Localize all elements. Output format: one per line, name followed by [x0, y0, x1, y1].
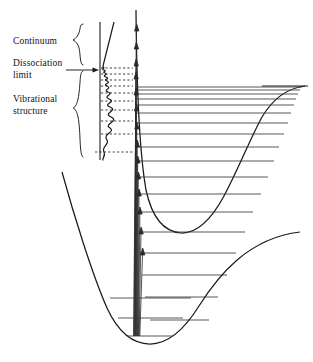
spectrum-vibrational-trace: [103, 67, 114, 160]
label-continuum: Continuum: [13, 36, 57, 48]
spectrum-continuum-trace: [103, 22, 114, 67]
tie-lines-group: [95, 68, 133, 152]
upper-state-group: [136, 10, 308, 320]
spectrum-panel: [95, 22, 133, 160]
label-dissociation-limit: Dissociation limit: [13, 58, 62, 81]
figure-container: Continuum Dissociation limit Vibrational…: [0, 0, 313, 362]
ground-vibrational-levels-group: [110, 298, 191, 336]
dissociation-limit-arrow: [66, 67, 99, 72]
ground-state-group: [62, 172, 300, 344]
transition-arrows-group: [134, 24, 145, 336]
callouts-group: [66, 24, 99, 157]
brace-continuum: [73, 24, 83, 65]
brace-vibrational-structure: [73, 71, 83, 157]
upper-state-potential-curve: [136, 10, 305, 233]
label-vibrational-structure: Vibrational structure: [13, 94, 57, 117]
potential-energy-diagram: [0, 0, 313, 362]
